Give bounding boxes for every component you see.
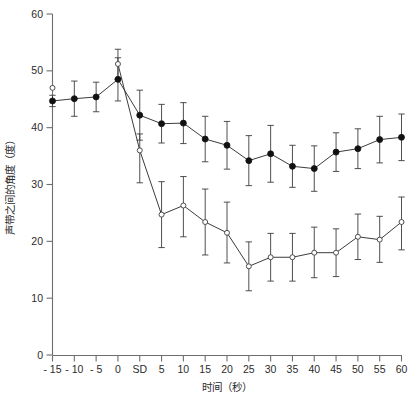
y-axis: 0102030405060: [31, 8, 52, 361]
data-point-filled: [137, 112, 143, 118]
x-tick-label: 25: [243, 363, 255, 375]
data-point-open: [203, 220, 208, 225]
data-point-filled: [268, 151, 274, 157]
data-point-filled: [224, 142, 230, 148]
data-point-filled: [180, 120, 186, 126]
x-tick-label: 10: [178, 363, 190, 375]
data-point-open: [50, 85, 55, 90]
x-tick-label: 20: [221, 363, 233, 375]
x-tick-label: 50: [352, 363, 364, 375]
x-tick-label: 30: [265, 363, 277, 375]
x-tick-label: - 15: [43, 363, 61, 375]
data-point-filled: [311, 166, 317, 172]
data-point-open: [137, 148, 142, 153]
data-point-open: [334, 250, 339, 255]
data-point-filled: [333, 149, 339, 155]
x-tick-label: 0: [115, 363, 121, 375]
x-axis: - 15- 10- 50SD51015202530354045505560: [43, 356, 407, 376]
y-tick-label: 20: [31, 235, 43, 247]
data-point-open: [290, 255, 295, 260]
data-point-filled: [399, 134, 405, 140]
y-tick-label: 30: [31, 178, 43, 190]
data-point-filled: [377, 137, 383, 143]
data-point-open: [399, 220, 404, 225]
data-point-filled: [93, 94, 99, 100]
x-tick-label: SD: [132, 363, 147, 375]
data-point-open: [159, 212, 164, 217]
data-point-open: [115, 62, 120, 67]
y-tick-label: 50: [31, 64, 43, 76]
y-tick-label: 10: [31, 292, 43, 304]
data-point-filled: [202, 136, 208, 142]
y-tick-label: 0: [37, 349, 43, 361]
data-point-open: [377, 237, 382, 242]
plot-area: [49, 49, 404, 291]
x-axis-ticks: [53, 356, 402, 362]
x-tick-label: 35: [287, 363, 299, 375]
data-point-filled: [50, 98, 56, 104]
x-tick-label: 60: [396, 363, 408, 375]
x-tick-label: - 10: [65, 363, 83, 375]
data-point-open: [268, 255, 273, 260]
data-point-open: [246, 264, 251, 269]
x-tick-label: 5: [159, 363, 165, 375]
x-tick-label: - 5: [90, 363, 102, 375]
data-point-open: [355, 234, 360, 239]
chart-container: 0102030405060 - 15- 10- 50SD510152025303…: [0, 0, 417, 404]
error-bars-series-open: [115, 49, 405, 291]
x-tick-label: 55: [374, 363, 386, 375]
x-axis-title: 时间（秒）: [202, 381, 252, 393]
data-point-filled: [115, 76, 121, 82]
line-chart: 0102030405060 - 15- 10- 50SD510152025303…: [0, 0, 417, 404]
data-point-filled: [289, 163, 295, 169]
x-tick-label: 40: [308, 363, 320, 375]
data-point-open: [312, 250, 317, 255]
data-point-filled: [246, 158, 252, 164]
y-tick-label: 60: [31, 8, 43, 20]
x-tick-label: 15: [199, 363, 211, 375]
data-point-open: [181, 203, 186, 208]
data-point-filled: [71, 96, 77, 102]
y-tick-label: 40: [31, 121, 43, 133]
data-point-filled: [355, 146, 361, 152]
error-bars-series-filled: [49, 58, 404, 192]
y-axis-tick-labels: 0102030405060: [31, 8, 43, 361]
y-axis-title: 声带之间的角度（度）: [4, 135, 16, 235]
x-tick-label: 45: [330, 363, 342, 375]
y-axis-ticks: [47, 14, 53, 355]
x-axis-tick-labels: - 15- 10- 50SD51015202530354045505560: [43, 363, 407, 375]
data-point-filled: [159, 121, 165, 127]
data-point-open: [225, 230, 230, 235]
